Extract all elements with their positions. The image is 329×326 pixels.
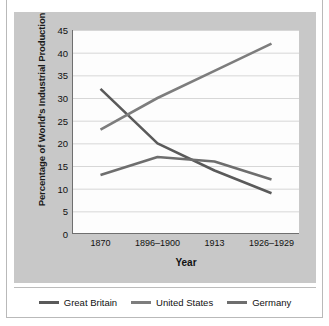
legend-item[interactable]: United States [131, 297, 213, 308]
legend-label: Great Britain [64, 297, 117, 308]
legend-swatch [227, 301, 247, 304]
x-axis-title: Year [72, 257, 300, 268]
series-line [101, 157, 272, 180]
legend-divider [14, 287, 316, 288]
legend-swatch [39, 301, 59, 304]
y-tick-label: 20 [46, 139, 68, 148]
x-tick-label: 1896–1900 [135, 237, 180, 249]
chart-screenshot: Percentage of World's Industrial Product… [0, 0, 329, 326]
y-tick-label: 45 [46, 26, 68, 35]
x-tick-label: 1913 [204, 237, 224, 249]
y-tick-label: 0 [46, 230, 68, 239]
data-series-lines [101, 44, 272, 194]
legend-item[interactable]: Germany [227, 297, 291, 308]
legend-item[interactable]: Great Britain [39, 297, 117, 308]
x-tick-label: 1926–1929 [249, 237, 294, 249]
legend-label: United States [156, 297, 213, 308]
y-tick-label: 30 [46, 94, 68, 103]
plot-area [72, 30, 300, 234]
legend-label: Germany [252, 297, 291, 308]
cut-off-title [8, 0, 321, 7]
y-tick-label: 10 [46, 184, 68, 193]
gridlines [72, 30, 300, 234]
y-axis-tick-labels: 454035302520151050 [46, 30, 68, 234]
series-line [101, 89, 272, 193]
x-axis-tick-labels: 18701896–190019131926–1929 [72, 237, 300, 251]
x-tick-label: 1870 [90, 237, 110, 249]
y-tick-label: 15 [46, 162, 68, 171]
y-tick-label: 35 [46, 71, 68, 80]
line-chart-svg [72, 30, 300, 234]
y-tick-label: 5 [46, 207, 68, 216]
legend-swatch [131, 301, 151, 304]
y-tick-label: 40 [46, 48, 68, 57]
y-axis-title: Percentage of World's Industrial Product… [36, 5, 47, 215]
y-tick-label: 25 [46, 116, 68, 125]
chart-legend: Great BritainUnited StatesGermany [14, 292, 316, 312]
chart-panel: Percentage of World's Industrial Product… [14, 12, 316, 283]
series-line [101, 44, 272, 130]
